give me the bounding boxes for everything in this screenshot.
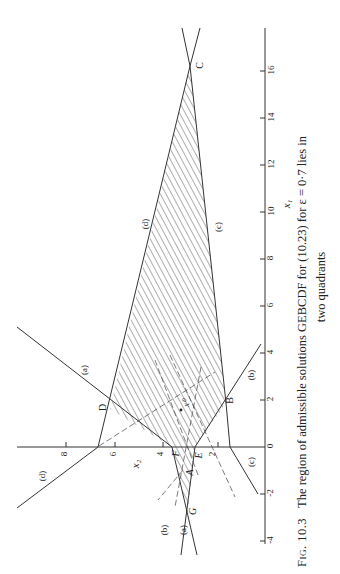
x1-axis-label: x₁	[280, 200, 292, 209]
line-label-d: (d)	[37, 471, 47, 482]
x1-axis	[260, 28, 265, 544]
x1-tick-label: 6	[265, 303, 275, 308]
point-label-a: A	[184, 469, 195, 475]
line-label-a: (a)	[79, 365, 89, 375]
x2-axis-label: x₂	[129, 460, 141, 469]
line-label-d: (d)	[140, 219, 150, 230]
x1-tick-label: 16	[266, 66, 276, 75]
point-label-c: C	[194, 62, 205, 69]
x2-tick-label: 4	[155, 452, 165, 457]
point-label-g: G	[187, 508, 198, 515]
x1-tick-label: -4	[265, 536, 275, 544]
point-label-e: E	[193, 452, 204, 458]
x1-tick-label: -2	[265, 489, 275, 497]
figure-caption: Fig. 10.3The region of admissible soluti…	[293, 7, 331, 567]
line-label-b: (b)	[246, 370, 256, 381]
line-label-c: (c)	[246, 457, 256, 467]
line-label-c: (c)	[213, 222, 223, 232]
line-c-lower	[226, 403, 230, 447]
x1-tick-label: 0	[265, 444, 275, 449]
point-label-x0: x⁰	[181, 399, 191, 407]
x1-tick-label: 10	[266, 207, 276, 216]
x1-tick-label: 12	[266, 160, 276, 169]
x2-tick-label: 2	[207, 452, 217, 457]
caption-line-2: two quadrants	[312, 7, 331, 567]
feasible-region	[110, 66, 226, 515]
x2-tick-label: 8	[59, 452, 69, 457]
line-d-lower	[17, 447, 98, 508]
point-label-d: D	[97, 404, 108, 411]
x1-tick-label: 4	[265, 350, 275, 355]
point-x0-marker	[180, 409, 183, 412]
x1-tick-label: 2	[265, 397, 275, 402]
line-d-extension	[190, 28, 200, 66]
line-c-extension	[182, 28, 190, 66]
point-label-b: B	[224, 397, 235, 404]
line-c-lower-ext	[230, 447, 258, 494]
x2-axis	[17, 442, 265, 447]
point-label-f: F	[170, 450, 181, 456]
x2-tick-label: 6	[108, 452, 118, 457]
x1-tick-label: 8	[265, 256, 275, 261]
line-label-a: (a)	[178, 525, 188, 535]
figure-diagram	[0, 0, 340, 574]
line-label-b: (b)	[159, 525, 169, 536]
caption-line-1: The region of admissible solutions GEBCD…	[295, 136, 309, 508]
x1-tick-label: 14	[266, 113, 276, 122]
figure-number: Fig. 10.3	[295, 518, 309, 567]
